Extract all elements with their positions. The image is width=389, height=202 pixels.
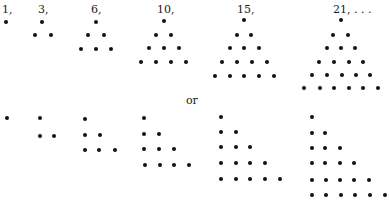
dot-icon <box>338 178 342 182</box>
number-label: 21, . . . <box>333 4 371 15</box>
dot-icon <box>318 86 322 90</box>
dot-icon <box>172 163 176 167</box>
dot-icon <box>219 145 223 149</box>
dot-icon <box>302 86 306 90</box>
dot-icon <box>310 115 314 119</box>
dot-icon <box>339 46 343 50</box>
dot-icon <box>352 161 356 165</box>
dot-icon <box>38 134 42 138</box>
dot-icon <box>352 178 356 182</box>
dot-icon <box>265 60 269 64</box>
dot-icon <box>169 60 173 64</box>
dot-icon <box>113 148 117 152</box>
dot-icon <box>234 145 238 149</box>
dot-icon <box>361 60 365 64</box>
dot-icon <box>142 116 146 120</box>
dot-icon <box>79 47 83 51</box>
dot-icon <box>354 73 358 77</box>
dot-icon <box>142 147 146 151</box>
dot-icon <box>383 193 387 197</box>
dot-icon <box>272 74 276 78</box>
dot-icon <box>340 73 344 77</box>
dot-icon <box>235 33 239 37</box>
dot-icon <box>157 132 161 136</box>
dot-icon <box>154 60 158 64</box>
dot-icon <box>324 193 328 197</box>
dot-icon <box>325 73 329 77</box>
dot-icon <box>228 74 232 78</box>
dot-icon <box>347 60 351 64</box>
dot-icon <box>83 133 87 137</box>
dot-icon <box>158 163 162 167</box>
dot-icon <box>323 131 327 135</box>
triangular-numbers-figure: 1,3,6,10,15,21, . . . or <box>0 0 389 202</box>
dot-icon <box>177 46 181 50</box>
dot-icon <box>367 178 371 182</box>
dot-icon <box>219 177 223 181</box>
dot-icon <box>4 20 8 24</box>
dot-icon <box>310 178 314 182</box>
dot-icon <box>154 33 158 37</box>
dot-icon <box>339 18 343 22</box>
dot-icon <box>235 60 239 64</box>
dot-icon <box>33 33 37 37</box>
dot-icon <box>368 193 372 197</box>
dot-icon <box>248 177 252 181</box>
dot-icon <box>263 161 267 165</box>
dot-icon <box>109 47 113 51</box>
dot-icon <box>234 177 238 181</box>
dot-icon <box>94 20 98 24</box>
number-label: 10, <box>157 4 175 15</box>
dot-icon <box>332 86 336 90</box>
dot-icon <box>162 46 166 50</box>
dot-icon <box>347 86 351 90</box>
dot-icon <box>376 86 380 90</box>
dot-icon <box>52 134 56 138</box>
dot-icon <box>263 177 267 181</box>
or-separator: or <box>186 95 198 106</box>
dot-icon <box>97 148 101 152</box>
dot-icon <box>278 177 282 181</box>
dot-icon <box>332 60 336 64</box>
dot-icon <box>94 47 98 51</box>
dot-icon <box>102 33 106 37</box>
dot-icon <box>38 116 42 120</box>
dot-icon <box>323 146 327 150</box>
dot-icon <box>310 146 314 150</box>
dot-icon <box>83 148 87 152</box>
dot-icon <box>353 193 357 197</box>
dot-icon <box>331 33 335 37</box>
dot-icon <box>228 46 232 50</box>
dot-icon <box>242 46 246 50</box>
dot-icon <box>98 133 102 137</box>
dot-icon <box>83 117 87 121</box>
dot-icon <box>219 161 223 165</box>
dot-icon <box>310 73 314 77</box>
dot-icon <box>310 161 314 165</box>
dot-icon <box>324 178 328 182</box>
dot-icon <box>249 33 253 37</box>
number-label: 3, <box>38 4 49 15</box>
number-label: 1, <box>2 4 13 15</box>
dot-icon <box>187 163 191 167</box>
dot-icon <box>338 161 342 165</box>
dot-icon <box>257 74 261 78</box>
dot-icon <box>317 60 321 64</box>
dot-icon <box>184 60 188 64</box>
number-label: 15, <box>237 4 255 15</box>
dot-icon <box>234 161 238 165</box>
dot-icon <box>162 19 166 23</box>
dot-icon <box>310 131 314 135</box>
dot-icon <box>169 33 173 37</box>
dot-icon <box>242 74 246 78</box>
dot-icon <box>325 46 329 50</box>
dot-icon <box>248 161 252 165</box>
dot-icon <box>220 60 224 64</box>
dot-icon <box>219 130 223 134</box>
dot-icon <box>338 146 342 150</box>
dot-icon <box>142 132 146 136</box>
dot-icon <box>361 86 365 90</box>
dot-icon <box>139 60 143 64</box>
dot-icon <box>353 46 357 50</box>
dot-icon <box>248 145 252 149</box>
